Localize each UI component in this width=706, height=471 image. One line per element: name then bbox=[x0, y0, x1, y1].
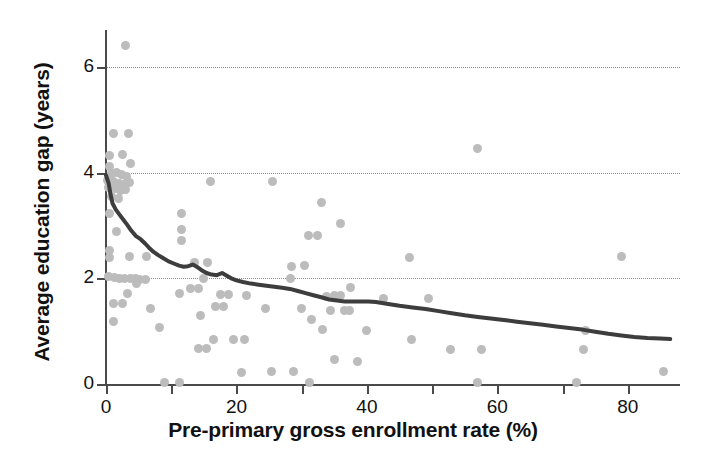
x-axis-title: Pre-primary gross enrollment rate (%) bbox=[0, 418, 706, 442]
chart-figure: Average education gap (years) Pre-primar… bbox=[0, 0, 706, 471]
y-tick-label-2: 2 bbox=[68, 266, 94, 288]
plot-area: 0246 020406080 bbox=[106, 30, 680, 385]
x-tick-80 bbox=[628, 385, 630, 394]
y-tick-label-6: 6 bbox=[68, 55, 94, 77]
x-tick-0 bbox=[106, 385, 108, 394]
x-minor-tick-50 bbox=[432, 385, 434, 394]
x-minor-tick-70 bbox=[563, 385, 565, 394]
x-tick-label-20: 20 bbox=[213, 396, 259, 418]
y-tick-label-4: 4 bbox=[68, 161, 94, 183]
x-tick-label-40: 40 bbox=[344, 396, 390, 418]
y-axis-title: Average education gap (years) bbox=[30, 22, 54, 402]
x-minor-tick-10 bbox=[171, 385, 173, 394]
x-tick-60 bbox=[497, 385, 499, 394]
x-tick-label-0: 0 bbox=[83, 396, 129, 418]
trend-line bbox=[106, 30, 680, 386]
x-minor-tick-30 bbox=[302, 385, 304, 394]
y-tick-label-0: 0 bbox=[68, 372, 94, 394]
x-tick-40 bbox=[367, 385, 369, 394]
x-tick-label-80: 80 bbox=[605, 396, 651, 418]
x-tick-20 bbox=[236, 385, 238, 394]
x-tick-label-60: 60 bbox=[474, 396, 520, 418]
